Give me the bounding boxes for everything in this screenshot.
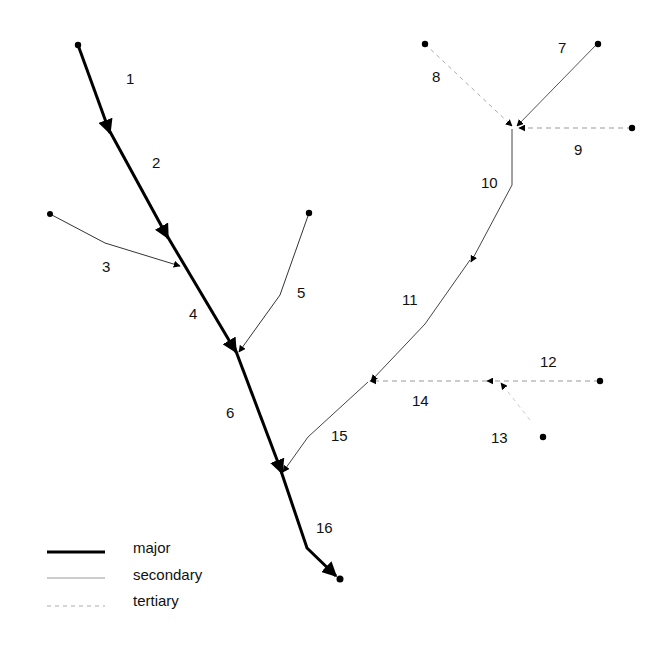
nodes [47, 41, 635, 583]
label-12: 12 [540, 353, 557, 370]
label-11: 11 [402, 291, 418, 308]
segment-5 [239, 213, 309, 352]
node-source-1 [75, 42, 81, 48]
label-16: 16 [316, 519, 333, 536]
segment-13 [501, 383, 530, 420]
node-outlet [337, 576, 344, 583]
segment-4 [166, 234, 236, 352]
node-source-3 [47, 211, 53, 217]
label-7: 7 [558, 39, 566, 56]
node-source-8 [422, 41, 428, 47]
label-14: 14 [412, 392, 429, 409]
segment-6 [234, 346, 282, 473]
label-13: 13 [491, 429, 508, 446]
segment-7 [517, 44, 597, 126]
segment-15 [283, 382, 368, 472]
legend-major-label: major [133, 539, 171, 556]
node-source-13 [540, 434, 546, 440]
diagram-svg: 1 2 3 4 5 6 7 8 9 10 11 12 13 14 15 16 m… [0, 0, 667, 646]
legend-tertiary-label: tertiary [133, 592, 179, 609]
label-2: 2 [152, 154, 160, 171]
label-4: 4 [189, 305, 197, 322]
node-source-12 [597, 378, 603, 384]
node-source-5 [306, 210, 312, 216]
segment-1 [78, 45, 110, 133]
legend-secondary-label: secondary [133, 566, 203, 583]
node-source-9 [629, 125, 635, 131]
label-10: 10 [481, 174, 498, 191]
label-3: 3 [102, 258, 110, 275]
segment-11 [371, 260, 470, 381]
label-15: 15 [331, 427, 348, 444]
stream-network-diagram: 1 2 3 4 5 6 7 8 9 10 11 12 13 14 15 16 m… [0, 0, 667, 646]
label-9: 9 [574, 141, 582, 158]
label-8: 8 [432, 68, 440, 85]
segment-labels: 1 2 3 4 5 6 7 8 9 10 11 12 13 14 15 16 [102, 39, 582, 536]
node-source-7 [595, 41, 601, 47]
segment-2 [108, 128, 168, 238]
segment-8 [425, 44, 512, 126]
legend: major secondary tertiary [47, 539, 203, 609]
label-6: 6 [226, 404, 234, 421]
label-5: 5 [297, 284, 305, 301]
label-1: 1 [126, 70, 134, 87]
segment-10 [471, 129, 512, 262]
